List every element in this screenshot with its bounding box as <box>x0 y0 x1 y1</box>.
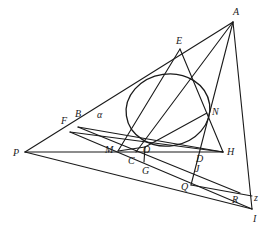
label-point-O: O <box>143 144 150 155</box>
geometry-diagram: AENHBαFPMCOGDJQRIz <box>0 0 272 242</box>
segment-A-C <box>136 22 233 152</box>
label-point-R: R <box>231 194 238 205</box>
segment-O-N <box>145 113 207 147</box>
label-point-M: M <box>104 144 114 155</box>
label-point-A: A <box>232 6 240 17</box>
segment-Q-z <box>191 185 252 196</box>
label-point-F: F <box>60 115 68 126</box>
label-point-P: P <box>12 147 19 158</box>
label-point-H: H <box>226 146 235 157</box>
segment-M-O <box>118 147 145 151</box>
label-point-G: G <box>142 165 149 176</box>
label-point-Q: Q <box>181 181 189 192</box>
segment-B-R <box>78 127 240 193</box>
segment-A-I <box>233 22 252 209</box>
label-point-J: J <box>195 163 200 174</box>
label-point-E: E <box>175 35 182 46</box>
label-point-alpha: α <box>97 109 103 120</box>
label-point-N: N <box>211 106 220 117</box>
label-point-B: B <box>75 108 81 119</box>
label-point-C: C <box>128 155 135 166</box>
label-point-I: I <box>252 213 257 224</box>
label-point-z: z <box>253 192 258 203</box>
